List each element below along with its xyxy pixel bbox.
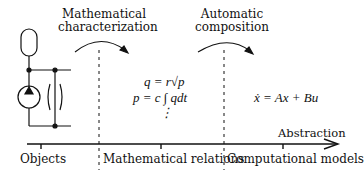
step-label-composition: Automatic composition <box>192 8 272 34</box>
equation-flow: q = r√p <box>144 75 184 88</box>
arc-arrow-characterization <box>75 41 128 53</box>
step1-line2: characterization <box>58 21 150 34</box>
step2-line2: composition <box>192 21 272 34</box>
tick-label-computational-models: Computational models <box>227 153 364 166</box>
axis-label-abstraction: Abstraction <box>278 127 346 140</box>
equation-state-space: ẋ = Ax + Bu <box>254 91 318 104</box>
tick-label-objects: Objects <box>20 153 66 166</box>
equation-ellipsis: ⋮ <box>160 106 173 119</box>
abstraction-axis <box>27 139 338 149</box>
hydraulic-circuit-icon <box>18 29 71 128</box>
step-label-characterization: Mathematical characterization <box>58 8 150 34</box>
tick-label-mathematical-relations: Mathematical relations <box>103 153 244 166</box>
equation-pressure: p = c ∫ qdt <box>133 91 187 104</box>
arc-arrow-composition <box>198 43 253 54</box>
